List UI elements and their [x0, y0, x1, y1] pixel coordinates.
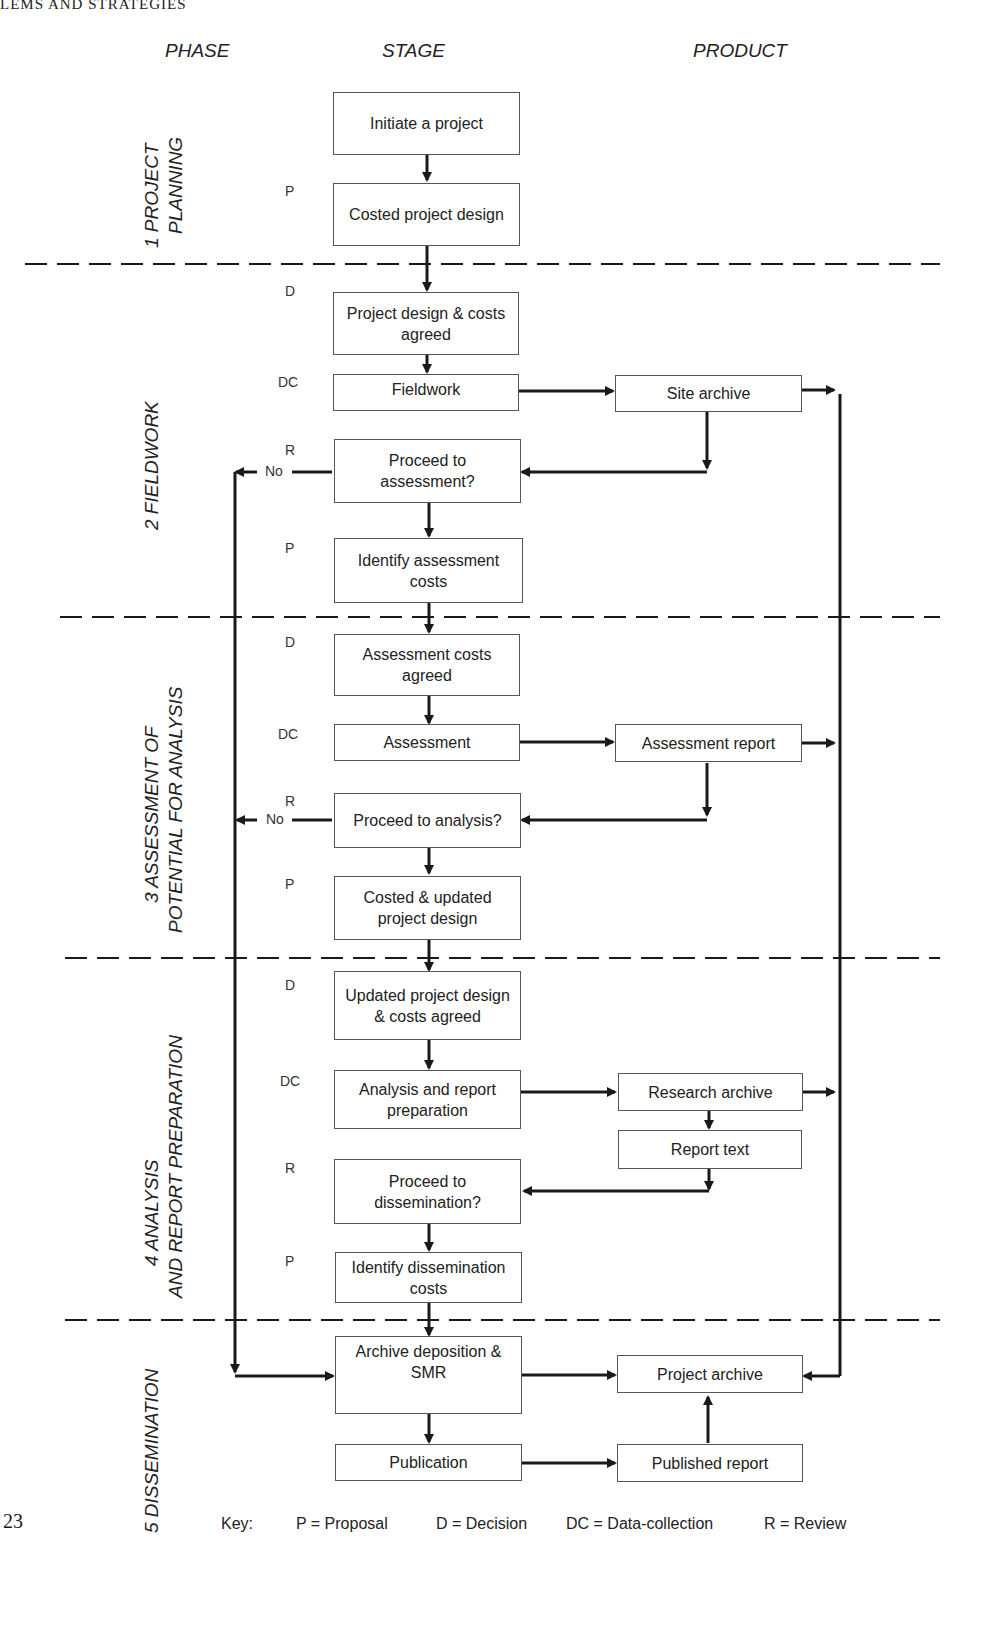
- key-item-decision: D = Decision: [436, 1515, 527, 1533]
- phase-5-line1: 5 DISSEMINATION: [140, 1369, 164, 1533]
- key-item-review: R = Review: [764, 1515, 846, 1533]
- stage-box-costed-updated-design: Costed & updated project design: [334, 876, 521, 940]
- stage-box-initiate: Initiate a project: [333, 92, 520, 155]
- stage-code: D: [285, 977, 295, 993]
- phase-4-line1: 4 ANALYSIS: [140, 1035, 164, 1298]
- product-box-project-archive: Project archive: [617, 1355, 803, 1393]
- stage-code: P: [285, 540, 294, 556]
- product-box-report-text: Report text: [618, 1130, 802, 1169]
- phase-label-4: 4 ANALYSIS AND REPORT PREPARATION: [140, 1035, 188, 1298]
- no-label-analysis: No: [266, 811, 284, 827]
- key-title: Key:: [221, 1515, 253, 1533]
- stage-box-identify-assessment-costs: Identify assessment costs: [334, 538, 523, 603]
- no-label-assessment: No: [265, 463, 283, 479]
- stage-box-proceed-assessment: Proceed to assessment?: [334, 439, 521, 503]
- page-number: 23: [3, 1510, 23, 1533]
- phase-1-line1: 1 PROJECT: [140, 137, 164, 248]
- stage-box-assessment-costs-agreed: Assessment costs agreed: [334, 634, 520, 696]
- stage-code: R: [285, 442, 295, 458]
- stage-box-costed-design: Costed project design: [333, 183, 520, 246]
- stage-code: DC: [278, 726, 298, 742]
- phase-label-5: 5 DISSEMINATION: [140, 1369, 164, 1533]
- product-box-assessment-report: Assessment report: [615, 724, 802, 762]
- product-box-research-archive: Research archive: [618, 1073, 803, 1111]
- stage-box-identify-dissemination-costs: Identify dissemination costs: [335, 1252, 522, 1303]
- stage-box-assessment: Assessment: [334, 724, 520, 761]
- phase-label-3: 3 ASSESSMENT OF POTENTIAL FOR ANALYSIS: [140, 687, 188, 933]
- phase-label-1: 1 PROJECT PLANNING: [140, 137, 188, 248]
- stage-code: R: [285, 1160, 295, 1176]
- stage-code: P: [285, 1253, 294, 1269]
- stage-code: DC: [278, 374, 298, 390]
- key-item-data-collection: DC = Data-collection: [566, 1515, 713, 1533]
- stage-code: P: [285, 183, 294, 199]
- key-item-proposal: P = Proposal: [296, 1515, 388, 1533]
- stage-code: D: [285, 283, 295, 299]
- product-box-site-archive: Site archive: [615, 375, 802, 412]
- stage-box-archive-deposition: Archive deposition & SMR: [335, 1336, 522, 1414]
- flowchart-diagram: LEMS AND STRATEGIES PHASE STAGE PRODUCT: [0, 0, 1000, 1649]
- stage-code: DC: [280, 1073, 300, 1089]
- phase-4-line2: AND REPORT PREPARATION: [164, 1035, 188, 1298]
- stage-box-proceed-analysis: Proceed to analysis?: [334, 793, 521, 848]
- phase-2-line1: 2 FIELDWORK: [140, 401, 164, 530]
- phase-label-2: 2 FIELDWORK: [140, 401, 164, 530]
- stage-code: R: [285, 793, 295, 809]
- stage-box-analysis-report-prep: Analysis and report preparation: [334, 1070, 521, 1129]
- stage-box-fieldwork: Fieldwork: [333, 374, 519, 411]
- stage-box-updated-design-agreed: Updated project design & costs agreed: [334, 971, 521, 1040]
- stage-box-design-agreed: Project design & costs agreed: [333, 292, 519, 355]
- phase-3-line1: 3 ASSESSMENT OF: [140, 687, 164, 933]
- stage-box-proceed-dissemination: Proceed to dissemination?: [334, 1159, 521, 1224]
- stage-code: D: [285, 634, 295, 650]
- stage-code: P: [285, 876, 294, 892]
- stage-box-publication: Publication: [335, 1444, 522, 1481]
- phase-3-line2: POTENTIAL FOR ANALYSIS: [164, 687, 188, 933]
- phase-1-line2: PLANNING: [164, 137, 188, 248]
- product-box-published-report: Published report: [617, 1444, 803, 1482]
